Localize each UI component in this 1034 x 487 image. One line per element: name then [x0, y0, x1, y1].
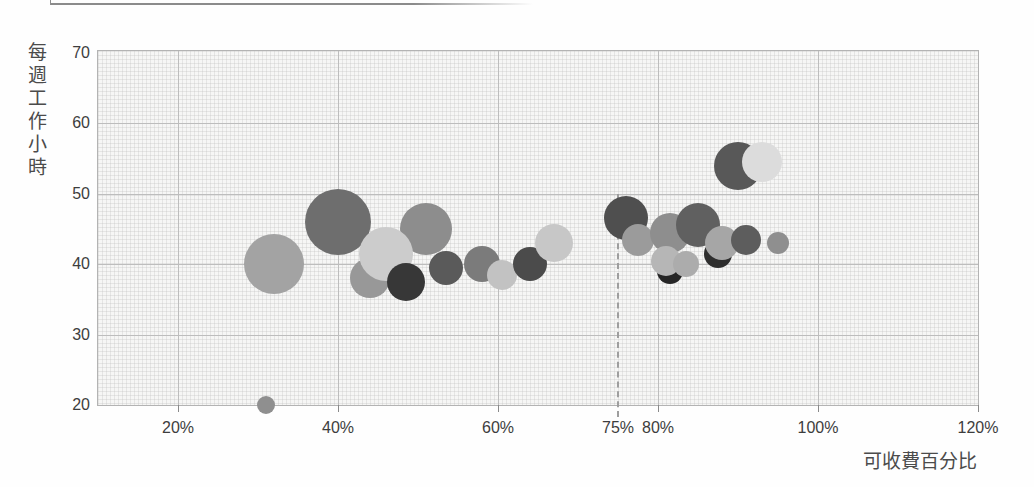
x-tick-mark	[978, 405, 979, 412]
bubble	[429, 251, 463, 285]
y-tick-label: 20	[54, 396, 90, 414]
x-tick-mark	[498, 405, 499, 412]
bubble	[731, 225, 761, 255]
bubble	[673, 251, 699, 277]
y-tick-label: 30	[54, 326, 90, 344]
horizontal-gridline	[98, 335, 978, 336]
x-tick-mark	[818, 405, 819, 412]
bubble	[622, 224, 654, 256]
vertical-gridline	[498, 51, 499, 405]
bubble-chart-page: 每週工作小時 20%40%60%75%80%100%120%2030405060…	[0, 0, 1034, 487]
x-tick-mark	[658, 405, 659, 412]
y-axis-title: 每週工作小時	[22, 42, 49, 180]
vertical-gridline	[818, 51, 819, 405]
y-tick-label: 70	[54, 44, 90, 62]
x-tick-mark	[178, 405, 179, 412]
bubble	[257, 396, 275, 414]
x-tick-label: 120%	[958, 419, 999, 437]
y-tick-label: 60	[54, 114, 90, 132]
y-tick-label: 50	[54, 185, 90, 203]
bubble	[244, 234, 304, 294]
bubble	[767, 232, 789, 254]
vertical-gridline	[178, 51, 179, 405]
x-tick-label: 100%	[798, 419, 839, 437]
x-tick-label: 60%	[482, 419, 514, 437]
cropped-panel-edge	[50, 0, 533, 5]
horizontal-gridline	[98, 123, 978, 124]
y-tick-label: 40	[54, 255, 90, 273]
plot-area: 20%40%60%75%80%100%120%203040506070	[97, 50, 979, 406]
x-tick-label: 20%	[162, 419, 194, 437]
x-tick-label: 80%	[642, 419, 674, 437]
x-axis-title: 可收費百分比	[97, 446, 977, 473]
x-tick-label: 40%	[322, 419, 354, 437]
bubble	[742, 142, 782, 182]
bubble	[387, 263, 425, 301]
x-tick-label: 75%	[602, 419, 634, 437]
horizontal-gridline	[98, 194, 978, 195]
bubble	[535, 224, 573, 262]
x-tick-mark	[338, 405, 339, 412]
